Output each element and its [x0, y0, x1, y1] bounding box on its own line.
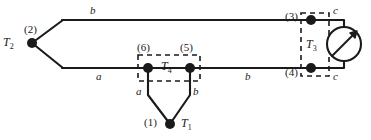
temp-t4-subscript: 4	[168, 66, 172, 75]
temp-t1-subscript: 1	[188, 123, 192, 132]
wire-label-leg-a: a	[136, 86, 142, 97]
temperature-label-t4: T4	[161, 60, 172, 75]
temperature-label-t3: T3	[306, 38, 317, 53]
node-label-3: (3)	[285, 11, 298, 22]
wire-t2-to-bottom-rail	[32, 43, 63, 68]
wire-label-lead-c-top: c	[333, 5, 338, 16]
temperature-label-t2: T2	[3, 36, 14, 51]
wire-label-bottom-b: b	[245, 71, 251, 82]
temp-t2-subscript: 2	[10, 42, 14, 51]
wire-lead-c-top	[311, 20, 344, 27]
temp-t3-letter: T	[306, 37, 313, 51]
wire-label-top-b: b	[90, 5, 96, 16]
node-label-1: (1)	[144, 117, 157, 128]
node-dot-1	[165, 119, 175, 129]
node-label-6: (6)	[137, 42, 150, 53]
wire-label-bottom-a: a	[96, 71, 102, 82]
node-dot-6	[143, 63, 153, 73]
temp-t3-subscript: 3	[313, 44, 317, 53]
node-label-2: (2)	[24, 24, 37, 35]
temperature-label-t1: T1	[181, 117, 192, 132]
node-dot-3	[306, 15, 316, 25]
node-dot-4	[306, 63, 316, 73]
wire-lead-c-bottom	[311, 61, 344, 68]
node-dot-2	[27, 38, 37, 48]
node-dot-5	[185, 63, 195, 73]
temp-t2-letter: T	[3, 35, 10, 49]
thermocouple-circuit-diagram: (2) (6) (5) (3) (4) (1) T2 T1 T4 T3 b a …	[0, 0, 371, 140]
wire-label-leg-b: b	[193, 86, 199, 97]
wire-label-lead-c-bottom: c	[333, 71, 338, 82]
temp-t4-letter: T	[161, 59, 168, 73]
node-label-5: (5)	[180, 42, 193, 53]
temp-t1-letter: T	[181, 116, 188, 130]
node-label-4: (4)	[285, 67, 298, 78]
